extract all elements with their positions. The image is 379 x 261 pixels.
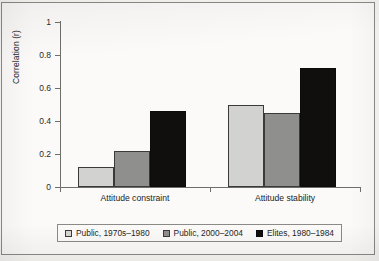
legend-label-elites: Elites, 1980–1984 bbox=[267, 229, 334, 237]
legend-label-public-1970s: Public, 1970s–1980 bbox=[76, 229, 150, 237]
y-tick-label-0: 0 bbox=[11, 183, 51, 192]
x-label-attitude-constraint: Attitude constraint bbox=[60, 193, 210, 203]
bar-constraint-public-2000s bbox=[114, 151, 150, 187]
y-tick-label-0.4: 0.4 bbox=[11, 117, 51, 126]
chart-legend: Public, 1970s–1980 Public, 2000–2004 Eli… bbox=[57, 224, 342, 242]
y-tick-label-0.2: 0.2 bbox=[11, 150, 51, 159]
bar-stability-elites bbox=[300, 68, 336, 187]
y-tick-label-1: 1 bbox=[11, 18, 51, 27]
y-tick-label-0.8: 0.8 bbox=[11, 51, 51, 60]
legend-item-public-2000s: Public, 2000–2004 bbox=[163, 229, 243, 237]
x-tick-middle bbox=[210, 188, 211, 192]
x-label-attitude-stability: Attitude stability bbox=[210, 193, 360, 203]
y-tick-label-0.6: 0.6 bbox=[11, 84, 51, 93]
bar-constraint-elites bbox=[150, 111, 186, 187]
legend-item-public-1970s: Public, 1970s–1980 bbox=[65, 229, 150, 237]
x-tick-right bbox=[360, 188, 361, 192]
bar-stability-public-2000s bbox=[264, 113, 300, 187]
x-tick-left bbox=[60, 188, 61, 192]
chart-figure: Correlation (r) 1 0.8 0.6 0.4 0.2 0 Atti… bbox=[0, 0, 379, 261]
legend-swatch-icon-elites bbox=[256, 230, 263, 237]
plot-area bbox=[60, 22, 360, 187]
legend-swatch-icon-public-1970s bbox=[65, 230, 72, 237]
legend-item-elites: Elites, 1980–1984 bbox=[256, 229, 334, 237]
bar-constraint-public-1970s bbox=[78, 167, 114, 187]
bar-stability-public-1970s bbox=[228, 105, 264, 188]
legend-label-public-2000s: Public, 2000–2004 bbox=[174, 229, 243, 237]
legend-swatch-icon-public-2000s bbox=[163, 230, 170, 237]
